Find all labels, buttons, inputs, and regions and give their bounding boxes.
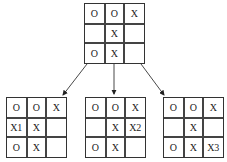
cell: O: [85, 4, 105, 24]
cell: O: [7, 137, 27, 157]
cell: X: [125, 98, 145, 118]
cell: [164, 118, 184, 138]
cell: X: [105, 24, 125, 44]
cell: [124, 43, 144, 63]
cell: O: [86, 98, 106, 118]
child-board-3: O O X X O X X3: [163, 97, 224, 158]
cell: X: [106, 118, 126, 138]
root-board: O O X X O X: [84, 3, 145, 64]
cell: [203, 118, 223, 138]
child-board-2: O O X X X2 O X: [85, 97, 146, 158]
cell: O: [86, 137, 106, 157]
cell: X: [203, 98, 223, 118]
cell: O: [164, 98, 184, 118]
cell: X: [105, 43, 125, 63]
cell: X2: [125, 118, 145, 138]
cell: O: [105, 4, 125, 24]
cell: [85, 24, 105, 44]
cell: X: [184, 137, 204, 157]
cell: X: [27, 118, 47, 138]
cell: X: [27, 137, 47, 157]
cell: X: [106, 137, 126, 157]
cell: X: [46, 98, 66, 118]
cell: [124, 24, 144, 44]
cell: [46, 118, 66, 138]
cell: X: [124, 4, 144, 24]
cell: O: [164, 137, 184, 157]
cell: X1: [7, 118, 27, 138]
child-board-1: O O X X1 X O X: [6, 97, 67, 158]
cell: X: [184, 118, 204, 138]
cell: [125, 137, 145, 157]
cell: O: [85, 43, 105, 63]
arrow-left: [63, 64, 87, 95]
cell: O: [184, 98, 204, 118]
cell: [86, 118, 106, 138]
cell: O: [27, 98, 47, 118]
arrow-right: [141, 64, 164, 95]
cell: O: [7, 98, 27, 118]
cell: O: [106, 98, 126, 118]
cell: [46, 137, 66, 157]
cell: X3: [203, 137, 223, 157]
